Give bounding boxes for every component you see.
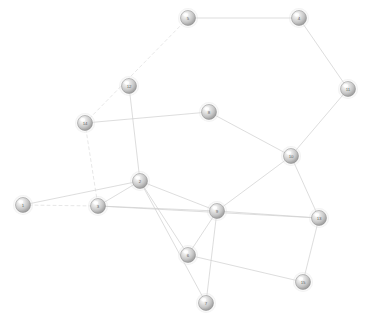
graph-node[interactable]: 1 xyxy=(13,195,33,215)
graph-node[interactable]: 10 xyxy=(281,146,301,166)
node-sphere[interactable] xyxy=(341,82,356,97)
graph-node[interactable]: 2 xyxy=(130,171,150,191)
graph-node[interactable]: 3 xyxy=(88,196,108,216)
node-specular-highlight xyxy=(18,200,23,204)
network-graph-svg: 123456789101112131415 xyxy=(0,0,367,319)
node-sphere[interactable] xyxy=(181,11,196,26)
graph-node[interactable]: 8 xyxy=(199,102,219,122)
node-specular-highlight xyxy=(183,250,188,254)
graph-edge xyxy=(23,205,98,206)
graph-edge xyxy=(129,86,140,181)
node-sphere[interactable] xyxy=(16,198,31,213)
graph-node[interactable]: 6 xyxy=(178,245,198,265)
node-specular-highlight xyxy=(343,84,348,88)
graph-edge xyxy=(23,181,140,205)
graph-node[interactable]: 11 xyxy=(338,79,358,99)
graph-edge xyxy=(188,255,303,282)
node-specular-highlight xyxy=(298,277,303,281)
graph-edge xyxy=(140,181,188,255)
graph-node[interactable]: 14 xyxy=(75,113,95,133)
graph-edge xyxy=(85,18,188,123)
node-sphere[interactable] xyxy=(78,116,93,131)
node-specular-highlight xyxy=(201,298,206,302)
graph-edge xyxy=(209,112,291,156)
node-sphere[interactable] xyxy=(284,149,299,164)
node-specular-highlight xyxy=(183,13,188,17)
graph-edge xyxy=(140,181,217,211)
node-sphere[interactable] xyxy=(296,275,311,290)
node-specular-highlight xyxy=(286,151,291,155)
graph-node[interactable]: 12 xyxy=(119,76,139,96)
graph-edge xyxy=(140,181,206,303)
node-specular-highlight xyxy=(314,213,319,217)
graph-node[interactable]: 15 xyxy=(293,272,313,292)
node-specular-highlight xyxy=(294,13,299,17)
graph-node[interactable]: 4 xyxy=(289,8,309,28)
graph-edge xyxy=(85,123,98,206)
network-graph-canvas: 123456789101112131415 xyxy=(0,0,367,319)
node-specular-highlight xyxy=(80,118,85,122)
graph-edge xyxy=(299,18,348,89)
graph-edge xyxy=(291,89,348,156)
node-sphere[interactable] xyxy=(292,11,307,26)
graph-node[interactable]: 7 xyxy=(196,293,216,313)
node-specular-highlight xyxy=(135,176,140,180)
node-sphere[interactable] xyxy=(199,296,214,311)
node-specular-highlight xyxy=(212,206,217,210)
graph-edge xyxy=(291,156,319,218)
node-sphere[interactable] xyxy=(202,105,217,120)
node-sphere[interactable] xyxy=(312,211,327,226)
graph-node[interactable]: 13 xyxy=(309,208,329,228)
node-sphere[interactable] xyxy=(181,248,196,263)
graph-edge xyxy=(217,156,291,211)
graph-node[interactable]: 5 xyxy=(178,8,198,28)
node-specular-highlight xyxy=(124,81,129,85)
graph-edge xyxy=(217,211,319,218)
node-layer: 123456789101112131415 xyxy=(13,8,358,313)
node-sphere[interactable] xyxy=(210,204,225,219)
node-sphere[interactable] xyxy=(91,199,106,214)
graph-edge xyxy=(85,112,209,123)
node-sphere[interactable] xyxy=(122,79,137,94)
node-sphere[interactable] xyxy=(133,174,148,189)
node-specular-highlight xyxy=(204,107,209,111)
node-specular-highlight xyxy=(93,201,98,205)
graph-node[interactable]: 9 xyxy=(207,201,227,221)
